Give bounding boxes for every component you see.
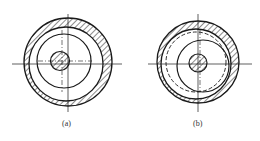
outer-ring-hatch-b	[0, 0, 260, 141]
caption-a: (a)	[62, 119, 71, 128]
panel-b-drawing	[0, 0, 260, 141]
caption-b: (b)	[193, 119, 202, 128]
diagram-canvas	[0, 0, 260, 141]
